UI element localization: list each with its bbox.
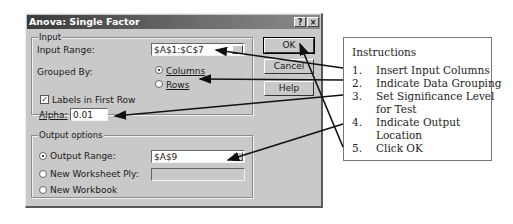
instructions-title: Instructions — [352, 46, 416, 58]
new-worksheet-field[interactable] — [151, 168, 245, 181]
input-range-value: $A$1:$C$7 — [154, 45, 204, 55]
collapse-dialog-icon[interactable] — [232, 45, 243, 54]
alpha-label: Alpha: — [39, 110, 68, 120]
new-workbook-radio[interactable] — [39, 186, 47, 194]
dialog-title: Anova: Single Factor — [29, 16, 140, 27]
alpha-value: 0.01 — [73, 110, 93, 120]
rows-label[interactable]: Rows — [166, 80, 189, 90]
collapse-dialog-icon[interactable] — [232, 152, 243, 161]
output-group-label: Output options — [38, 130, 104, 140]
help-question-button[interactable]: ? — [294, 17, 306, 27]
new-worksheet-label[interactable]: New Worksheet Ply: — [50, 169, 139, 179]
columns-label[interactable]: Columns — [166, 66, 205, 76]
rows-radio[interactable] — [155, 80, 163, 88]
output-range-field[interactable]: $A$9 — [151, 150, 245, 163]
input-group-label: Input — [38, 32, 62, 42]
labels-first-row-checkbox[interactable]: ✓ — [40, 95, 49, 104]
output-range-label[interactable]: Output Range: — [50, 151, 116, 161]
output-range-value: $A$9 — [154, 152, 177, 162]
close-icon[interactable]: × — [307, 17, 319, 27]
labels-first-row-label[interactable]: Labels in First Row — [52, 95, 135, 105]
new-worksheet-radio[interactable] — [39, 170, 47, 178]
help-button[interactable]: Help — [264, 81, 314, 96]
output-range-radio[interactable] — [39, 152, 47, 160]
anova-dialog: Anova: Single Factor ? × Input Input Ran… — [25, 13, 323, 208]
cancel-button[interactable]: Cancel — [264, 59, 314, 74]
columns-radio[interactable] — [155, 66, 163, 74]
alpha-field[interactable]: 0.01 — [70, 108, 108, 121]
input-range-label: Input Range: — [37, 45, 95, 55]
instructions-box: Instructions 1. Insert Input Columns 2. … — [343, 37, 492, 161]
ok-button[interactable]: OK — [264, 38, 314, 53]
new-workbook-label[interactable]: New Workbook — [50, 185, 117, 195]
input-range-field[interactable]: $A$1:$C$7 — [151, 43, 245, 56]
title-bar[interactable]: Anova: Single Factor ? × — [27, 15, 320, 29]
grouped-by-label: Grouped By: — [37, 67, 92, 77]
